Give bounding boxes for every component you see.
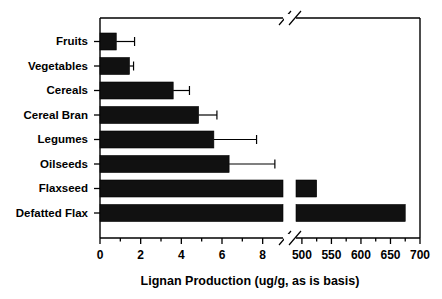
bar-cereal-bran bbox=[100, 107, 199, 124]
bar-vegetables bbox=[100, 58, 129, 75]
bar-cereals bbox=[100, 82, 173, 99]
cat-label-legumes: Legumes bbox=[38, 133, 89, 145]
category-tick-marks bbox=[94, 42, 100, 214]
cat-label-flaxseed: Flaxseed bbox=[39, 182, 88, 194]
xtick-label-upper-650: 650 bbox=[380, 248, 400, 262]
bar-flaxseed-upper-segment bbox=[296, 180, 317, 197]
bar-defatted-flax-upper-segment bbox=[296, 205, 405, 222]
cat-label-cereals: Cereals bbox=[46, 84, 88, 96]
chart-figure: Fruits Vegetables Cereals Cereal Bran Le… bbox=[0, 0, 442, 299]
category-labels: Fruits Vegetables Cereals Cereal Bran Le… bbox=[16, 35, 89, 219]
xtick-label-lower-2: 2 bbox=[137, 248, 144, 262]
bar-legumes bbox=[100, 131, 214, 148]
bar-chart-svg: Fruits Vegetables Cereals Cereal Bran Le… bbox=[0, 0, 442, 299]
x-axis-tick-labels-group: 02468500550600650700 bbox=[97, 248, 431, 262]
cat-label-cereal-bran: Cereal Bran bbox=[23, 109, 88, 121]
cat-label-defatted-flax: Defatted Flax bbox=[16, 207, 89, 219]
bar-oilseeds bbox=[100, 156, 229, 173]
xtick-label-lower-8: 8 bbox=[259, 248, 266, 262]
xtick-label-lower-6: 6 bbox=[219, 248, 226, 262]
cat-label-oilseeds: Oilseeds bbox=[40, 158, 88, 170]
cat-label-vegetables: Vegetables bbox=[28, 60, 88, 72]
xtick-label-upper-600: 600 bbox=[351, 248, 371, 262]
cat-label-fruits: Fruits bbox=[56, 35, 88, 47]
xtick-label-upper-700: 700 bbox=[410, 248, 430, 262]
break-mask-top bbox=[284, 14, 289, 22]
xtick-label-lower-0: 0 bbox=[97, 248, 104, 262]
bar-flaxseed-lower-segment bbox=[100, 180, 283, 197]
xtick-label-lower-4: 4 bbox=[178, 248, 185, 262]
error-bars-group bbox=[116, 37, 275, 169]
bar-defatted-flax-lower-segment bbox=[100, 205, 283, 222]
xtick-label-upper-500: 500 bbox=[292, 248, 312, 262]
bars-group bbox=[100, 33, 405, 222]
x-axis-ticks-group bbox=[100, 238, 420, 244]
bar-fruits bbox=[100, 33, 116, 50]
xtick-label-upper-550: 550 bbox=[321, 248, 341, 262]
x-axis-title: Lignan Production (ug/g, as is basis) bbox=[141, 274, 360, 288]
break-mask-bottom bbox=[284, 234, 289, 242]
